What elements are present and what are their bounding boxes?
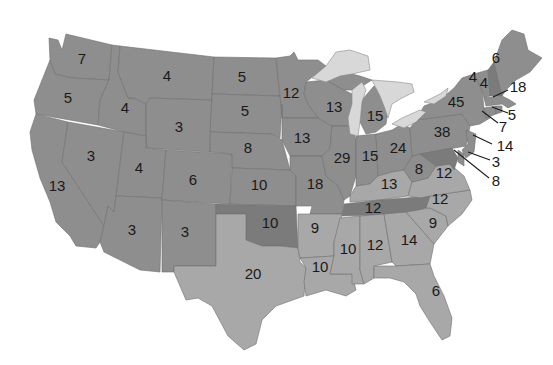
label-ar: 9 <box>311 219 319 236</box>
label-wi: 13 <box>326 98 343 115</box>
label-nm: 3 <box>181 223 189 240</box>
label-or: 5 <box>64 89 72 106</box>
label-ny: 45 <box>448 93 465 110</box>
label-ga: 14 <box>401 231 418 248</box>
label-ma: 18 <box>510 78 527 95</box>
label-ok: 10 <box>262 214 279 231</box>
label-pa: 38 <box>434 123 451 140</box>
label-sd: 5 <box>241 102 249 119</box>
label-fl: 6 <box>432 282 440 299</box>
label-nj: 14 <box>497 137 514 154</box>
label-ne: 8 <box>244 139 252 156</box>
label-la: 10 <box>312 258 329 275</box>
label-wv: 8 <box>415 160 423 177</box>
label-ia: 13 <box>294 129 311 146</box>
label-ky: 13 <box>381 175 398 192</box>
label-nd: 5 <box>238 68 246 85</box>
label-ct: 7 <box>499 118 507 135</box>
label-va: 12 <box>436 164 453 181</box>
label-wy: 3 <box>175 118 183 135</box>
label-sc: 9 <box>429 214 437 231</box>
label-nh: 4 <box>480 74 488 91</box>
label-me: 6 <box>492 49 500 66</box>
label-vt: 4 <box>469 68 477 85</box>
label-wa: 7 <box>78 50 86 67</box>
label-mt: 4 <box>163 67 171 84</box>
label-ms: 10 <box>340 240 357 257</box>
label-oh: 24 <box>390 139 407 156</box>
label-tn: 12 <box>365 199 382 216</box>
label-nv: 3 <box>87 147 95 164</box>
label-mo: 18 <box>307 175 324 192</box>
us-electoral-map: 7 5 13 3 4 4 3 4 3 6 3 5 5 8 10 10 20 12… <box>0 0 553 365</box>
label-id: 4 <box>121 99 129 116</box>
label-ks: 10 <box>251 176 268 193</box>
label-ut: 4 <box>135 159 143 176</box>
label-tx: 20 <box>245 265 262 282</box>
label-mi: 15 <box>367 107 384 124</box>
label-co: 6 <box>189 171 197 188</box>
label-de: 3 <box>492 153 500 170</box>
label-mn: 12 <box>283 84 300 101</box>
label-il: 29 <box>334 149 351 166</box>
label-md: 8 <box>492 172 500 189</box>
label-ca: 13 <box>49 177 66 194</box>
label-ri: 5 <box>508 106 516 123</box>
label-nc: 12 <box>432 190 449 207</box>
label-az: 3 <box>128 221 136 238</box>
label-al: 12 <box>367 236 384 253</box>
label-in: 15 <box>362 147 379 164</box>
